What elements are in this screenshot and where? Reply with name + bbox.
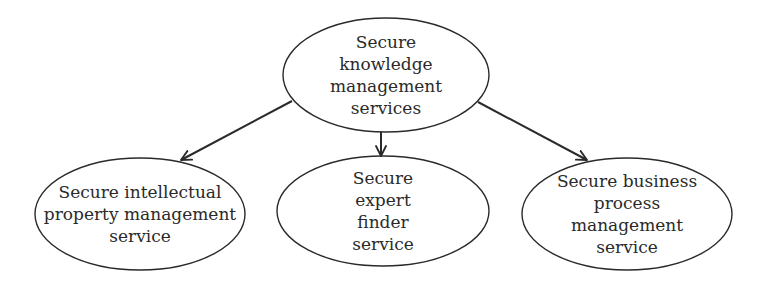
root-node-label: Secure knowledge management services (283, 18, 489, 132)
edge-root-to-bpm (478, 102, 587, 160)
diagram-canvas: Secure knowledge management services Sec… (0, 0, 767, 290)
edge-root-to-ip (181, 101, 292, 160)
expert-node-label: Secure expert finder service (278, 156, 488, 266)
ip-node-label: Secure intellectual property management … (35, 158, 245, 270)
bpm-node-label: Secure business process management servi… (522, 158, 732, 270)
